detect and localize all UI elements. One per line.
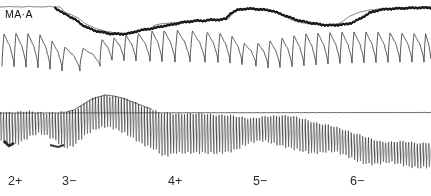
x-axis-tick-label-5: 6− bbox=[350, 174, 364, 188]
channel-label: MA·A bbox=[5, 8, 33, 20]
x-axis-tick-label-1: 2+ bbox=[8, 174, 22, 188]
physiological-trace-canvas bbox=[0, 0, 431, 196]
x-axis-tick-label-4: 5− bbox=[253, 174, 267, 188]
x-axis-tick-label-2: 3− bbox=[62, 174, 76, 188]
chart-recorder-figure: MA·A 2+ 3− 4+ 5− 6− bbox=[0, 0, 431, 196]
x-axis-tick-label-3: 4+ bbox=[168, 174, 182, 188]
